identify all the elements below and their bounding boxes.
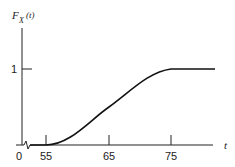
x-tick-label-55: 55 bbox=[40, 150, 52, 162]
y-axis-label-sub: X bbox=[18, 16, 25, 25]
x-tick-label-75: 75 bbox=[165, 150, 177, 162]
y-axis-label-main: F bbox=[11, 9, 19, 21]
x-tick-label-0: 0 bbox=[16, 150, 22, 162]
y-axis-label-arg: (t) bbox=[26, 10, 35, 20]
x-axis-label: t bbox=[224, 139, 228, 151]
cdf-chart: 0 55 65 75 1 t F X (t) bbox=[0, 0, 235, 167]
cdf-curve bbox=[30, 69, 215, 145]
x-tick-label-65: 65 bbox=[103, 150, 115, 162]
y-tick-label-1: 1 bbox=[11, 63, 17, 75]
